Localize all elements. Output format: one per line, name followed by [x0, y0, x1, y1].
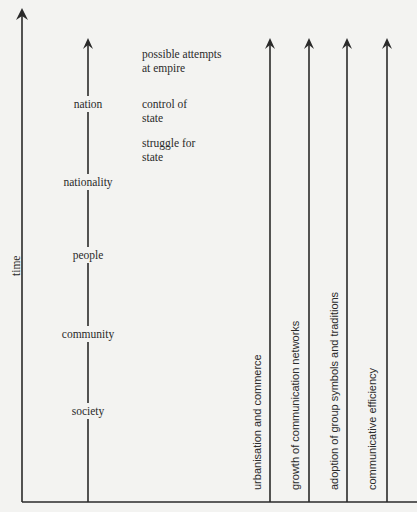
- time-axis-label: time: [10, 256, 22, 276]
- process-label-adoption-of-group-symbols-and-traditions: adoption of group symbols and traditions: [328, 292, 340, 490]
- process-label-growth-of-communication-networks: growth of communication networks: [289, 321, 301, 490]
- stage-label-people: people: [71, 247, 106, 263]
- stage-label-community: community: [60, 326, 116, 342]
- process-label-urbanisation-and-commerce: urbanisation and commerce: [251, 354, 263, 490]
- process-label-communicative-efficiency: communicative efficiency: [366, 368, 378, 490]
- diagram-canvas: [0, 0, 417, 512]
- note-possible-attempts-at-empire: possible attempts at empire: [142, 47, 222, 75]
- stage-label-nation: nation: [72, 96, 105, 112]
- note-control-of-state: control of state: [142, 97, 210, 125]
- stage-label-nationality: nationality: [61, 174, 114, 190]
- note-struggle-for-state: struggle for state: [142, 136, 206, 164]
- stage-label-society: society: [70, 403, 107, 419]
